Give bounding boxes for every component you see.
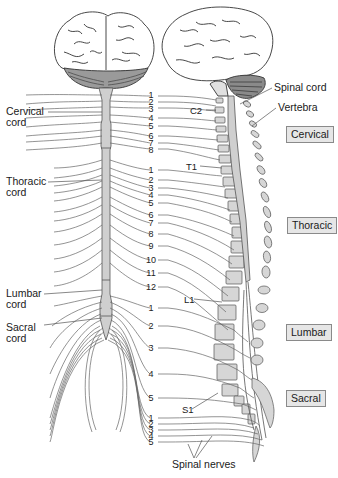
nerve-number: 10 — [144, 256, 158, 265]
spinal-cord-label: Spinal cord — [274, 82, 327, 93]
nerve-number: 3 — [144, 344, 158, 353]
sacral-cord-label: Sacral cord — [6, 322, 36, 344]
lumbar-cord-label: Lumbar cord — [6, 288, 42, 310]
t1-label: T1 — [186, 161, 197, 172]
nerve-number: 9 — [144, 242, 158, 251]
region-box-sacral: Sacral — [286, 390, 326, 407]
nerve-number: 5 — [144, 199, 158, 208]
posterior-brain-illustration — [54, 12, 154, 88]
nerve-number: 8 — [144, 146, 158, 155]
nerve-number: 8 — [144, 230, 158, 239]
spinal-nerves-label: Spinal nerves — [172, 459, 236, 470]
left-label-leaders — [44, 112, 102, 325]
lateral-brain-illustration — [162, 7, 273, 98]
region-box-thoracic: Thoracic — [287, 217, 337, 234]
nerve-number: 4 — [144, 370, 158, 379]
cervical-cord-label: Cervical cord — [6, 106, 44, 128]
nerve-number: 11 — [144, 269, 158, 278]
thoracic-cord-label: Thoracic cord — [6, 176, 46, 198]
s1-label: S1 — [182, 404, 194, 415]
nerve-number: 2 — [144, 322, 158, 331]
sacral-cord-label-line2: cord — [6, 333, 36, 344]
nerve-number: 5 — [144, 438, 158, 447]
nerve-number: 5 — [144, 122, 158, 131]
thoracic-cord-label-line2: cord — [6, 187, 46, 198]
region-box-lumbar: Lumbar — [286, 324, 332, 341]
region-box-cervical: Cervical — [286, 126, 334, 143]
spinal-cord-diagram: Cervical cord Thoracic cord Lumbar cord … — [0, 0, 338, 478]
nerve-number: 7 — [144, 219, 158, 228]
nerve-number: 12 — [144, 283, 158, 292]
vertebra-label: Vertebra — [278, 102, 318, 113]
nerve-number: 5 — [144, 394, 158, 403]
spinal-nerves-left — [26, 95, 150, 442]
nerve-connector-lines — [158, 96, 168, 442]
lumbar-cord-label-line2: cord — [6, 299, 42, 310]
l1-label: L1 — [184, 294, 195, 305]
nerve-number: 1 — [144, 304, 158, 313]
c2-label: C2 — [190, 105, 202, 116]
cervical-cord-label-line2: cord — [6, 117, 44, 128]
nerve-number: 1 — [144, 166, 158, 175]
